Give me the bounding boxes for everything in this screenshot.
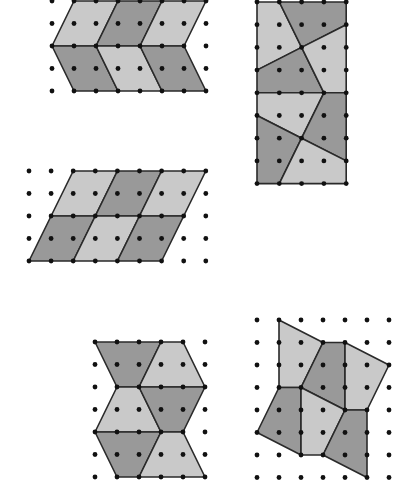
grid-dot bbox=[71, 169, 76, 174]
grid-dot bbox=[343, 318, 348, 323]
grid-dot bbox=[27, 191, 32, 196]
grid-dot bbox=[299, 385, 304, 390]
grid-dot bbox=[50, 89, 55, 94]
trapezoid-tiling bbox=[93, 340, 208, 480]
grid-dot bbox=[255, 90, 260, 95]
grid-dot bbox=[116, 66, 121, 71]
chevron-tiling bbox=[50, 0, 209, 93]
grid-dot bbox=[159, 236, 164, 241]
grid-dot bbox=[181, 259, 186, 264]
grid-dot bbox=[138, 21, 143, 26]
grid-dot bbox=[344, 90, 349, 95]
grid-dot bbox=[160, 66, 165, 71]
grid-dot bbox=[299, 181, 304, 186]
irregular-quadrilateral-tiling bbox=[255, 318, 392, 480]
grid-dot bbox=[365, 363, 370, 368]
grid-dot bbox=[322, 136, 327, 141]
grid-dot bbox=[344, 159, 349, 164]
grid-dot bbox=[115, 236, 120, 241]
grid-dot bbox=[49, 259, 54, 264]
grid-dot bbox=[277, 45, 282, 50]
grid-dot bbox=[387, 318, 392, 323]
grid-dot bbox=[93, 385, 98, 390]
grid-dot bbox=[159, 385, 164, 390]
grid-dot bbox=[181, 236, 186, 241]
grid-dot bbox=[365, 408, 370, 413]
grid-dot bbox=[387, 453, 392, 458]
grid-dot bbox=[255, 113, 260, 118]
grid-dot bbox=[277, 90, 282, 95]
grid-dot bbox=[159, 191, 164, 196]
grid-dot bbox=[72, 66, 77, 71]
grid-dot bbox=[322, 45, 327, 50]
grid-dot bbox=[277, 453, 282, 458]
grid-dot bbox=[299, 340, 304, 345]
grid-dot bbox=[115, 407, 120, 412]
rectangle-quadrilateral-tiling bbox=[255, 0, 349, 186]
grid-dot bbox=[203, 475, 208, 480]
grid-dot bbox=[181, 362, 186, 367]
grid-dot bbox=[93, 340, 98, 345]
grid-dot bbox=[255, 385, 260, 390]
grid-dot bbox=[255, 136, 260, 141]
grid-dot bbox=[182, 66, 187, 71]
grid-dot bbox=[159, 169, 164, 174]
grid-dot bbox=[321, 430, 326, 435]
light-tile bbox=[345, 343, 389, 411]
grid-dot bbox=[93, 169, 98, 174]
grid-dot bbox=[159, 430, 164, 435]
grid-dot bbox=[299, 90, 304, 95]
grid-dot bbox=[116, 21, 121, 26]
grid-dot bbox=[49, 214, 54, 219]
grid-dot bbox=[160, 21, 165, 26]
grid-dot bbox=[277, 318, 282, 323]
grid-dot bbox=[344, 181, 349, 186]
grid-dot bbox=[115, 385, 120, 390]
grid-dot bbox=[137, 340, 142, 345]
grid-dot bbox=[159, 475, 164, 480]
grid-dot bbox=[137, 169, 142, 174]
grid-dot bbox=[203, 430, 208, 435]
grid-dot bbox=[137, 362, 142, 367]
grid-dot bbox=[94, 21, 99, 26]
grid-dot bbox=[365, 385, 370, 390]
grid-dot bbox=[343, 385, 348, 390]
grid-dot bbox=[204, 89, 209, 94]
grid-dot bbox=[203, 385, 208, 390]
grid-dot bbox=[255, 475, 260, 480]
grid-dot bbox=[277, 340, 282, 345]
grid-dot bbox=[50, 66, 55, 71]
grid-dot bbox=[115, 169, 120, 174]
grid-dot bbox=[115, 340, 120, 345]
grid-dot bbox=[204, 66, 209, 71]
grid-dot bbox=[387, 408, 392, 413]
grid-dot bbox=[93, 214, 98, 219]
grid-dot bbox=[322, 181, 327, 186]
grid-dot bbox=[93, 475, 98, 480]
grid-dot bbox=[365, 318, 370, 323]
grid-dot bbox=[203, 452, 208, 457]
grid-dot bbox=[93, 452, 98, 457]
grid-dot bbox=[299, 136, 304, 141]
grid-dot bbox=[343, 453, 348, 458]
grid-dot bbox=[277, 22, 282, 27]
grid-dot bbox=[137, 475, 142, 480]
grid-dot bbox=[321, 453, 326, 458]
grid-dot bbox=[49, 169, 54, 174]
grid-dot bbox=[181, 385, 186, 390]
grid-dot bbox=[159, 259, 164, 264]
grid-dot bbox=[321, 475, 326, 480]
grid-dot bbox=[344, 136, 349, 141]
grid-dot bbox=[277, 430, 282, 435]
grid-dot bbox=[255, 340, 260, 345]
grid-dot bbox=[116, 44, 121, 49]
grid-dot bbox=[277, 136, 282, 141]
grid-dot bbox=[387, 430, 392, 435]
grid-dot bbox=[93, 407, 98, 412]
grid-dot bbox=[299, 363, 304, 368]
grid-dot bbox=[49, 191, 54, 196]
grid-dot bbox=[181, 169, 186, 174]
grid-dot bbox=[299, 113, 304, 118]
grid-dot bbox=[182, 21, 187, 26]
grid-dot bbox=[344, 68, 349, 73]
